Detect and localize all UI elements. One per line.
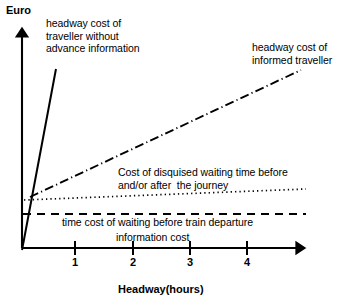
annotation-uninformed-traveller: headway cost of traveller without advanc… [46, 17, 140, 55]
annotation-informed-traveller: headway cost of informed traveller [252, 41, 332, 66]
x-axis-title: Headway(hours) [118, 283, 204, 295]
x-tick-label-1: 1 [65, 256, 85, 268]
annotation-waiting-time-cost: time cost of waiting before train depart… [62, 216, 253, 229]
chart-figure: Euro Headway(hours) 1 2 3 4 headway cost… [0, 0, 363, 303]
x-tick-label-2: 2 [123, 256, 143, 268]
x-tick-label-3: 3 [180, 256, 200, 268]
annotation-information-cost: information cost [116, 231, 189, 244]
series-line-uninformed [22, 69, 56, 250]
annotation-disguised-waiting-cost: Cost of disquised waiting time before an… [118, 166, 288, 191]
x-tick-label-4: 4 [237, 256, 257, 268]
y-axis-title: Euro [6, 4, 31, 16]
